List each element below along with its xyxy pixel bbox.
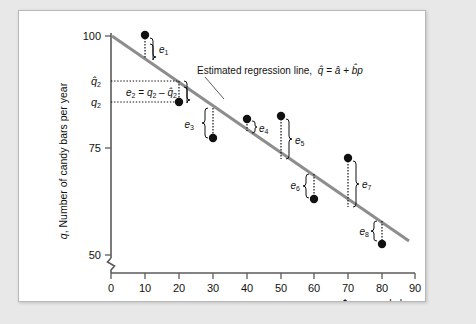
data-point [175, 98, 183, 106]
svg-text:q, Number of candy bars per ye: q, Number of candy bars per year [57, 82, 69, 239]
data-point [344, 154, 352, 162]
x-tick-label-10: 10 [139, 282, 151, 294]
residual-label-e1: e1 [159, 44, 169, 56]
figure-panel: 100 75 50 q̂2 q2 0 10 20 30 40 50 [18, 10, 426, 302]
residual-label-e8: e8 [360, 226, 370, 238]
data-point [277, 112, 285, 120]
x-tick-label-30: 30 [207, 282, 219, 294]
data-point [209, 134, 217, 142]
y-axis-break-icon [108, 258, 115, 273]
regression-caption-leader [205, 77, 224, 99]
data-point [310, 195, 318, 203]
y-tick-label-75: 75 [89, 142, 101, 154]
data-point [378, 240, 386, 248]
x-axis-title: p, ¢ per candy bar [329, 297, 415, 301]
x-ticks [111, 273, 415, 279]
y-ticks [105, 36, 111, 255]
x-tick-label-90: 90 [409, 282, 421, 294]
residual-label-e4: e4 [259, 123, 269, 135]
residual-label-e6: e6 [291, 180, 301, 192]
x-tick-label-20: 20 [173, 282, 185, 294]
q2-axis-label: q2 [91, 96, 101, 109]
x-tick-label-70: 70 [342, 282, 354, 294]
y-axis [108, 33, 115, 273]
data-point [243, 115, 251, 123]
regression-caption: Estimated regression line, q̂ = â + b̂p [197, 63, 363, 76]
data-point [141, 31, 149, 39]
residual-definition-e2: e2 = q2 – q̂2 [126, 87, 177, 99]
svg-text:q̂2: q̂2 [91, 75, 101, 88]
x-tick-label-40: 40 [241, 282, 253, 294]
x-tick-label-60: 60 [308, 282, 320, 294]
qhat2-axis-label: q̂2 [91, 75, 101, 88]
x-tick-label-80: 80 [376, 282, 388, 294]
y-axis-title: q, Number of candy bars per year [57, 82, 69, 239]
x-tick-label-50: 50 [275, 282, 287, 294]
residual-label-e3: e3 [185, 119, 195, 131]
y-tick-label-50: 50 [89, 249, 101, 261]
svg-text:q2: q2 [91, 96, 101, 109]
residual-label-e7: e7 [362, 179, 372, 191]
scatter-plot: 100 75 50 q̂2 q2 0 10 20 30 40 50 [19, 11, 425, 301]
y-tick-label-100: 100 [83, 30, 101, 42]
residual-label-e5: e5 [295, 135, 305, 147]
x-tick-label-0: 0 [108, 282, 114, 294]
